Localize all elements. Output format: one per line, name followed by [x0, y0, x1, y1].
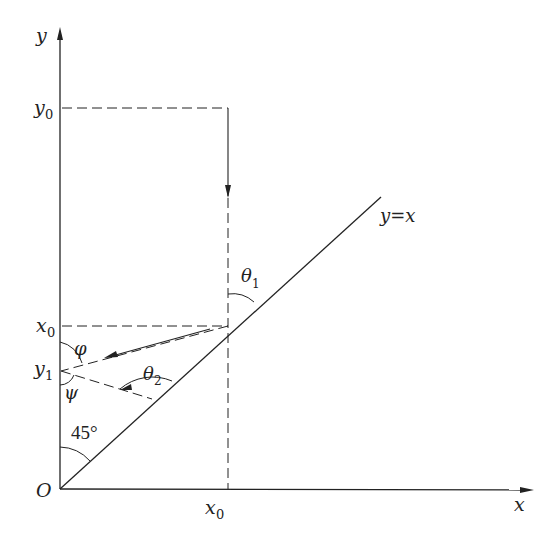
y1-label: y 1: [33, 357, 53, 383]
theta2-label-base: θ: [143, 363, 154, 384]
reflected-ray-arrow-icon: [104, 351, 118, 358]
theta2-label-sub: 2: [154, 374, 162, 388]
x0-x-axis-label-base: x: [205, 496, 216, 518]
x0-x-axis-label-sub: 0: [216, 507, 224, 522]
x0-y-axis-label: x 0: [36, 314, 55, 340]
x0-x-axis-label: x 0: [205, 496, 224, 522]
line-y-equals-x: [60, 197, 381, 489]
y1-label-sub: 1: [45, 368, 53, 383]
incident-ray-arrow-icon: [225, 185, 231, 198]
psi-label: ψ: [64, 382, 79, 403]
x0-y-axis-label-base: x: [36, 314, 47, 336]
theta1-label-base: θ: [241, 265, 252, 286]
x-axis: [60, 487, 534, 493]
theta1-arc: [228, 294, 254, 302]
y0-label-sub: 0: [45, 107, 53, 122]
y-axis: [57, 27, 63, 489]
diagram-canvas: y x O y=x y 0 x 0 y 1 x 0 θ 1 θ 2 φ ψ 45…: [0, 0, 560, 549]
x-axis-label: x: [514, 493, 525, 515]
y-axis-arrow-icon: [57, 27, 63, 40]
forty-five-arc: [60, 447, 90, 461]
x0-y-axis-label-sub: 0: [47, 325, 55, 340]
theta1-label: θ 1: [241, 265, 260, 291]
forty-five-degree-label: 45°: [71, 422, 98, 443]
reflected-ray-arrow-shaft: [112, 329, 210, 356]
origin-label: O: [36, 479, 52, 501]
y1-label-base: y: [33, 357, 45, 379]
line-y-equals-x-label: y=x: [379, 205, 415, 226]
theta2-label: θ 2: [143, 363, 162, 388]
y-axis-label: y: [35, 24, 47, 46]
theta1-label-sub: 1: [252, 277, 260, 291]
y0-label: y 0: [33, 96, 53, 122]
phi-label: φ: [74, 338, 87, 359]
y0-label-base: y: [33, 96, 45, 118]
